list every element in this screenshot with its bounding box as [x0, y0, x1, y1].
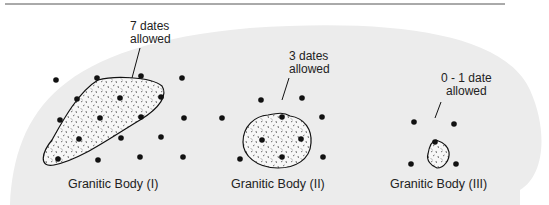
annotation-body-3: 0 - 1 date allowed: [441, 72, 492, 98]
annotation-line-2: allowed: [289, 63, 330, 76]
annotation-body-2: 3 dates allowed: [289, 50, 330, 76]
caption-body-3: Granitic Body (III): [390, 177, 487, 191]
caption-body-1: Granitic Body (I): [68, 177, 158, 191]
annotation-line-2: allowed: [130, 33, 171, 46]
annotation-line-2: allowed: [441, 85, 492, 98]
annotation-body-1: 7 dates allowed: [130, 20, 171, 46]
diagram-canvas: [0, 0, 549, 205]
caption-body-2: Granitic Body (II): [231, 177, 325, 191]
